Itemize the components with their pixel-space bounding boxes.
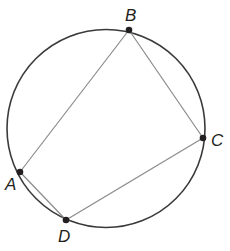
segment-ab — [20, 30, 129, 172]
segment-da — [20, 172, 66, 220]
label-d: D — [58, 227, 70, 246]
point-d — [63, 217, 70, 224]
label-b: B — [125, 6, 136, 25]
label-a: A — [4, 175, 16, 194]
point-c — [200, 135, 207, 142]
label-c: C — [211, 131, 224, 150]
point-a — [17, 169, 24, 176]
segment-bc — [129, 30, 203, 138]
geometry-diagram: A B C D — [0, 0, 230, 251]
segment-cd — [66, 138, 203, 220]
point-b — [126, 27, 133, 34]
